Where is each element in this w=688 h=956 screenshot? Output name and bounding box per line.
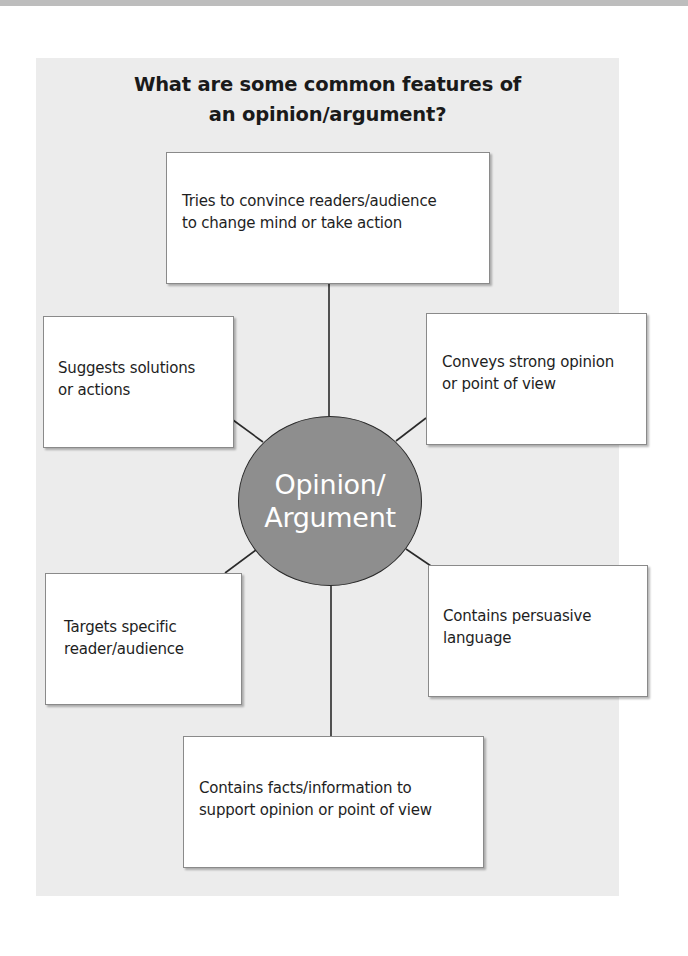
- feature-text-line: support opinion or point of view: [199, 799, 432, 821]
- feature-box-strong-opinion: Conveys strong opinion or point of view: [426, 313, 647, 445]
- feature-box-target-audience: Targets specific reader/audience: [45, 573, 242, 705]
- connector-lower-left: [225, 550, 256, 573]
- feature-text-line: Suggests solutions: [58, 357, 195, 379]
- feature-text-line: Contains facts/information to: [199, 777, 432, 799]
- feature-box-convince: Tries to convince readers/audience to ch…: [166, 152, 490, 284]
- central-topic-line-2: Argument: [264, 501, 396, 534]
- central-topic-line-1: Opinion/: [275, 468, 386, 501]
- central-topic-circle: Opinion/ Argument: [238, 416, 422, 586]
- feature-text-line: reader/audience: [64, 638, 184, 660]
- feature-box-persuasive-language: Contains persuasive language: [428, 565, 648, 697]
- connector-lower-right: [406, 549, 431, 566]
- feature-text-line: Conveys strong opinion: [442, 351, 614, 373]
- connector-upper-left: [233, 420, 263, 442]
- connector-upper-right: [396, 418, 426, 441]
- feature-text-line: or point of view: [442, 373, 614, 395]
- feature-text-line: Contains persuasive: [443, 605, 591, 627]
- feature-box-facts: Contains facts/information to support op…: [183, 736, 484, 868]
- feature-text-line: or actions: [58, 379, 195, 401]
- feature-text-line: Tries to convince readers/audience: [182, 190, 437, 212]
- feature-box-solutions: Suggests solutions or actions: [43, 316, 234, 448]
- feature-text-line: Targets specific: [64, 616, 184, 638]
- feature-text-line: to change mind or take action: [182, 212, 437, 234]
- feature-text-line: language: [443, 627, 591, 649]
